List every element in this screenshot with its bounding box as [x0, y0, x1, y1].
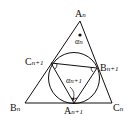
label-alpha-n1: αn+1	[66, 77, 82, 85]
label-b-n: Bn	[10, 103, 20, 113]
label-a-n1: An+1	[64, 106, 83, 116]
label-b-n1: Bn+1	[100, 63, 118, 73]
label-a-n: An	[75, 9, 86, 19]
angle-arc-c	[55, 64, 57, 69]
label-c-n: Cn	[113, 103, 123, 113]
label-c-n1: Cn+1	[25, 57, 43, 67]
label-alpha-n: αn	[75, 38, 83, 46]
